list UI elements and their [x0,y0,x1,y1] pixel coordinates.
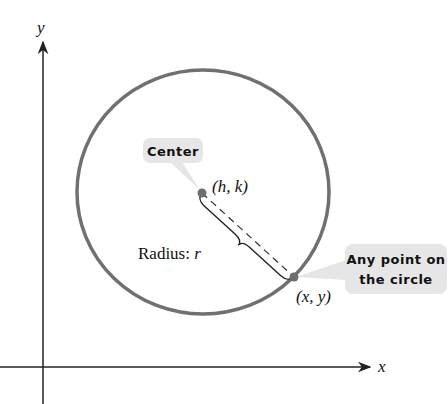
circle-point [290,273,299,282]
radius-dashed-line [202,193,294,277]
radius-label-prefix: Radius: [138,244,194,263]
radius-label-var: r [194,244,201,263]
point-callout-line2: the circle [359,272,432,287]
center-coordinates-label: (h, k) [212,177,248,196]
point-coordinates-label: (x, y) [296,287,331,306]
radius-brace [185,186,294,287]
point-callout-line1: Any point on [346,252,445,267]
center-callout: Center [143,138,203,190]
radius-label: Radius: r [138,244,201,263]
x-axis-label: x [377,357,386,376]
y-axis-label: y [35,18,45,37]
circle-diagram: Center Any point on the circle (h, k) (x… [0,0,448,404]
center-callout-label: Center [147,144,199,159]
center-point [198,189,207,198]
